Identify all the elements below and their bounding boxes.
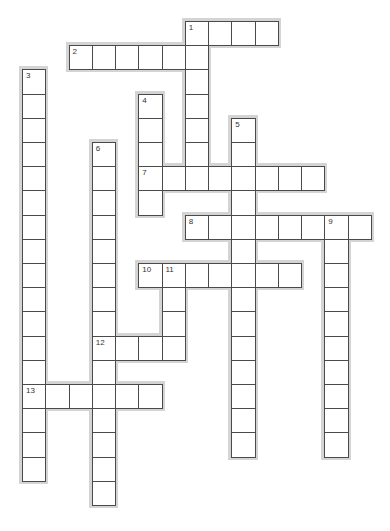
crossword-cell[interactable]	[92, 166, 116, 191]
crossword-cell[interactable]	[92, 287, 116, 312]
crossword-cell[interactable]: 11	[162, 263, 186, 288]
crossword-cell[interactable]: 8	[185, 215, 209, 240]
crossword-cell[interactable]	[185, 45, 209, 70]
crossword-cell[interactable]	[231, 239, 255, 264]
crossword-cell[interactable]	[185, 118, 209, 143]
crossword-cell[interactable]	[324, 360, 348, 385]
crossword-cell[interactable]	[92, 239, 116, 264]
crossword-cell[interactable]	[324, 432, 348, 457]
crossword-cell[interactable]: 2	[69, 45, 93, 70]
crossword-cell[interactable]	[92, 384, 116, 409]
crossword-cell[interactable]	[231, 190, 255, 215]
crossword-cell[interactable]	[255, 215, 279, 240]
crossword-cell[interactable]	[185, 69, 209, 94]
crossword-cell[interactable]	[22, 457, 46, 482]
crossword-cell[interactable]	[324, 336, 348, 361]
crossword-cell[interactable]	[22, 166, 46, 191]
crossword-cell[interactable]	[22, 118, 46, 143]
crossword-cell[interactable]	[115, 336, 139, 361]
crossword-cell[interactable]	[231, 336, 255, 361]
crossword-cell[interactable]	[92, 215, 116, 240]
crossword-cell[interactable]: 7	[138, 166, 162, 191]
crossword-cell[interactable]: 9	[324, 215, 348, 240]
crossword-cell[interactable]	[92, 457, 116, 482]
crossword-cell[interactable]	[255, 166, 279, 191]
crossword-cell[interactable]	[324, 239, 348, 264]
crossword-cell[interactable]	[231, 263, 255, 288]
crossword-cell[interactable]	[208, 263, 232, 288]
crossword-cell[interactable]	[278, 166, 302, 191]
crossword-cell[interactable]	[138, 384, 162, 409]
crossword-cell[interactable]	[92, 481, 116, 506]
crossword-cell[interactable]	[22, 311, 46, 336]
crossword-cell[interactable]	[231, 287, 255, 312]
crossword-cell[interactable]	[231, 142, 255, 167]
crossword-cell[interactable]: 12	[92, 336, 116, 361]
crossword-cell[interactable]: 1	[185, 21, 209, 46]
crossword-cell[interactable]	[185, 263, 209, 288]
crossword-cell[interactable]	[162, 336, 186, 361]
crossword-cell[interactable]	[22, 432, 46, 457]
crossword-cell[interactable]	[92, 360, 116, 385]
crossword-cell[interactable]	[231, 432, 255, 457]
crossword-cell[interactable]	[278, 215, 302, 240]
crossword-cell[interactable]	[208, 166, 232, 191]
crossword-cell[interactable]	[324, 311, 348, 336]
crossword-cell[interactable]: 13	[22, 384, 46, 409]
crossword-cell[interactable]: 5	[231, 118, 255, 143]
crossword-cell[interactable]	[22, 94, 46, 119]
crossword-cell[interactable]	[138, 142, 162, 167]
crossword-cell[interactable]	[92, 45, 116, 70]
crossword-cell[interactable]	[231, 215, 255, 240]
crossword-cell[interactable]	[22, 336, 46, 361]
crossword-cell[interactable]	[115, 384, 139, 409]
crossword-cell[interactable]	[22, 190, 46, 215]
crossword-cell[interactable]	[138, 118, 162, 143]
crossword-cell[interactable]	[162, 287, 186, 312]
crossword-cell[interactable]: 6	[92, 142, 116, 167]
crossword-cell[interactable]	[92, 311, 116, 336]
crossword-cell[interactable]	[138, 190, 162, 215]
crossword-cell[interactable]	[208, 215, 232, 240]
crossword-cell[interactable]	[22, 287, 46, 312]
crossword-cell[interactable]	[45, 384, 69, 409]
crossword-cell[interactable]	[162, 311, 186, 336]
crossword-cell[interactable]	[22, 360, 46, 385]
crossword-cell[interactable]: 4	[138, 94, 162, 119]
crossword-cell[interactable]	[92, 263, 116, 288]
crossword-cell[interactable]	[162, 166, 186, 191]
crossword-cell[interactable]	[231, 311, 255, 336]
crossword-cell[interactable]	[231, 384, 255, 409]
crossword-cell[interactable]	[22, 263, 46, 288]
crossword-cell[interactable]	[185, 166, 209, 191]
crossword-cell[interactable]	[324, 287, 348, 312]
crossword-cell[interactable]: 10	[138, 263, 162, 288]
crossword-cell[interactable]	[138, 336, 162, 361]
crossword-cell[interactable]: 3	[22, 69, 46, 94]
crossword-cell[interactable]	[162, 45, 186, 70]
crossword-cell[interactable]	[115, 45, 139, 70]
crossword-cell[interactable]	[231, 360, 255, 385]
crossword-cell[interactable]	[22, 142, 46, 167]
crossword-cell[interactable]	[138, 45, 162, 70]
crossword-cell[interactable]	[92, 408, 116, 433]
crossword-cell[interactable]	[92, 190, 116, 215]
crossword-cell[interactable]	[22, 408, 46, 433]
crossword-cell[interactable]	[22, 239, 46, 264]
crossword-cell[interactable]	[324, 263, 348, 288]
crossword-cell[interactable]	[231, 166, 255, 191]
crossword-cell[interactable]	[231, 21, 255, 46]
crossword-cell[interactable]	[208, 21, 232, 46]
crossword-cell[interactable]	[22, 215, 46, 240]
crossword-cell[interactable]	[69, 384, 93, 409]
crossword-cell[interactable]	[185, 94, 209, 119]
crossword-cell[interactable]	[301, 215, 325, 240]
crossword-cell[interactable]	[301, 166, 325, 191]
crossword-cell[interactable]	[255, 263, 279, 288]
crossword-cell[interactable]	[324, 384, 348, 409]
crossword-cell[interactable]	[231, 408, 255, 433]
crossword-cell[interactable]	[324, 408, 348, 433]
crossword-cell[interactable]	[92, 432, 116, 457]
crossword-cell[interactable]	[278, 263, 302, 288]
crossword-cell[interactable]	[255, 21, 279, 46]
